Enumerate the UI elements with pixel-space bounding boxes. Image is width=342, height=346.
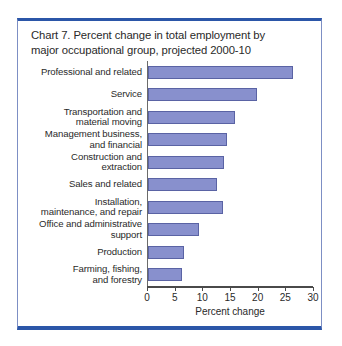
x-axis-tick-label: 15 xyxy=(215,292,245,303)
bar xyxy=(148,66,293,79)
chart-title-line-2: major occupational group, projected 2000… xyxy=(31,43,313,58)
bar xyxy=(148,246,184,259)
chart-title-line-1: Chart 7. Percent change in total employm… xyxy=(31,28,313,43)
bar xyxy=(148,88,257,101)
x-axis-tick xyxy=(147,287,148,291)
bar xyxy=(148,201,223,214)
x-axis-tick xyxy=(175,287,176,291)
chart-title: Chart 7. Percent change in total employm… xyxy=(31,28,313,58)
category-label-line: and financial xyxy=(18,140,142,151)
x-axis-tick-label: 20 xyxy=(243,292,273,303)
category-label: Production xyxy=(18,247,142,258)
x-axis-tick xyxy=(202,287,203,291)
bar xyxy=(148,223,199,236)
x-axis-tick xyxy=(313,287,314,291)
x-axis-title: Percent change xyxy=(147,306,313,317)
category-label: Sales and related xyxy=(18,179,142,190)
category-label: Installation,maintenance, and repair xyxy=(18,197,142,218)
category-label-line: Service xyxy=(18,89,142,100)
x-axis-tick-label: 25 xyxy=(270,292,300,303)
category-label: Office and administrativesupport xyxy=(18,219,142,240)
bar xyxy=(148,111,235,124)
category-axis-labels: Professional and relatedServiceTransport… xyxy=(18,61,144,286)
plot-area: Professional and relatedServiceTransport… xyxy=(18,61,320,319)
chart-screenshot: Chart 7. Percent change in total employm… xyxy=(0,0,342,346)
chart-frame: Chart 7. Percent change in total employm… xyxy=(17,18,322,330)
bar xyxy=(148,156,224,169)
category-label: Transportation andmaterial moving xyxy=(18,107,142,128)
category-label: Service xyxy=(18,89,142,100)
x-axis-tick-label: 0 xyxy=(132,292,162,303)
bar xyxy=(148,133,227,146)
x-axis-tick xyxy=(285,287,286,291)
category-label-line: Sales and related xyxy=(18,179,142,190)
category-label-line: and forestry xyxy=(18,275,142,286)
x-axis-tick xyxy=(258,287,259,291)
category-label-line: Professional and related xyxy=(18,67,142,78)
x-axis-tick-label: 30 xyxy=(298,292,328,303)
category-label: Professional and related xyxy=(18,67,142,78)
category-label-line: Production xyxy=(18,247,142,258)
category-label-line: extraction xyxy=(18,162,142,173)
category-label-line: maintenance, and repair xyxy=(18,207,142,218)
x-axis-tick-label: 5 xyxy=(160,292,190,303)
x-axis-tick xyxy=(230,287,231,291)
x-axis-tick-label: 10 xyxy=(187,292,217,303)
category-label-line: support xyxy=(18,230,142,241)
category-label: Construction andextraction xyxy=(18,152,142,173)
bar-series xyxy=(147,61,320,286)
category-label: Management business,and financial xyxy=(18,129,142,150)
bar xyxy=(148,268,182,281)
bar xyxy=(148,178,217,191)
category-label-line: material moving xyxy=(18,117,142,128)
category-label: Farming, fishing,and forestry xyxy=(18,264,142,285)
